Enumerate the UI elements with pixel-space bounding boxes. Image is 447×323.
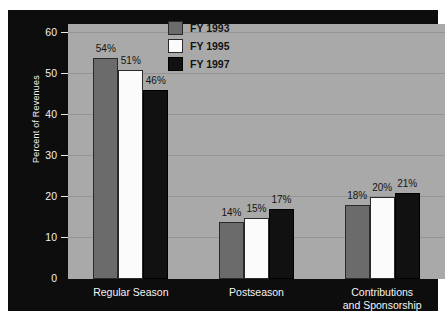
y-tick-label: 60 [31,27,57,38]
bar-fy-1993-regular-season[interactable] [93,58,118,279]
bar-fy-1997-postseason[interactable] [269,209,294,279]
chart-frame: Percent of Revenues 0102030405060 54%51%… [8,10,438,311]
y-tick-label: 30 [31,150,57,161]
bar-fy-1995-contributions-and-sponsorship[interactable] [370,197,395,279]
y-tick-mark [61,196,68,197]
legend-item-fy-1993[interactable]: FY 1993 [168,20,230,36]
bar-fy-1993-contributions-and-sponsorship[interactable] [345,205,370,279]
y-tick-label: 10 [31,232,57,243]
legend-label: FY 1997 [190,58,230,70]
bar-value-label: 51% [112,56,149,66]
y-tick-mark [61,73,68,74]
bar-value-label: 54% [87,44,124,54]
x-axis-category-label: Contributions and Sponsorship [305,286,447,311]
legend-label: FY 1993 [190,22,230,34]
y-tick-label: 50 [31,68,57,79]
y-tick-label: 40 [31,109,57,120]
bar-fy-1997-regular-season[interactable] [143,90,168,279]
legend-swatch-icon [168,39,183,53]
bar-fy-1993-postseason[interactable] [219,222,244,279]
bar-fy-1997-contributions-and-sponsorship[interactable] [395,193,420,279]
y-tick-label: 0 [31,273,57,284]
y-tick-mark [61,237,68,238]
y-tick-mark [61,32,68,33]
legend-item-fy-1997[interactable]: FY 1997 [168,56,230,72]
y-tick-label: 20 [31,191,57,202]
bar-value-label: 17% [263,195,300,205]
bar-value-label: 46% [137,76,174,86]
y-tick-mark [61,114,68,115]
legend-label: FY 1995 [190,40,230,52]
bar-value-label: 21% [389,179,426,189]
legend-item-fy-1995[interactable]: FY 1995 [168,38,230,54]
gridline [68,32,445,33]
legend-swatch-icon [168,21,183,35]
bar-fy-1995-postseason[interactable] [244,218,269,280]
legend-swatch-icon [168,57,183,71]
bar-fy-1995-regular-season[interactable] [118,70,143,279]
y-tick-mark [61,155,68,156]
